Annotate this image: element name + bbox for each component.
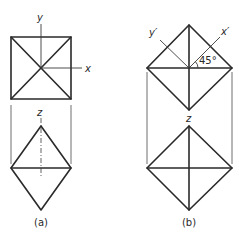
panel-b-y-prime-axis — [160, 40, 189, 68]
panel-a-z-label: z — [36, 107, 43, 118]
panel-b-caption: (b) — [182, 217, 196, 228]
panel-a: y x z (a) — [11, 12, 91, 228]
panel-a-x-label: x — [84, 63, 91, 74]
panel-b-angle-label: 45° — [199, 55, 217, 66]
panel-b-z-label: z — [185, 113, 192, 124]
orthographic-projection-diagram: y x z (a) y′ x′ 45° z (b) — [0, 0, 239, 236]
panel-b: y′ x′ 45° z (b) — [147, 25, 232, 228]
panel-b-y-prime-label: y′ — [148, 27, 158, 38]
panel-b-x-prime-label: x′ — [220, 26, 230, 37]
panel-a-y-label: y — [36, 12, 44, 23]
panel-a-caption: (a) — [34, 217, 48, 228]
panel-b-angle-arc — [195, 62, 198, 68]
